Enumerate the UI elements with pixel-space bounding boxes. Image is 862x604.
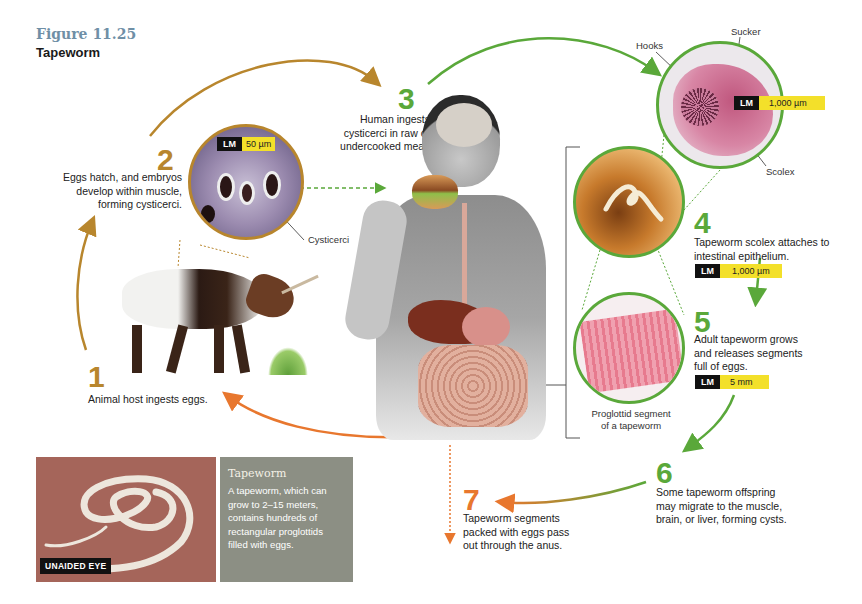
step-1-text: Animal host ingests eggs. xyxy=(88,393,228,407)
tapeworm-in-intestine-icon xyxy=(576,149,685,258)
scale-value: 5 mm xyxy=(720,375,769,389)
infobox-title: Tapeworm xyxy=(228,467,345,480)
scale-bar-proglottid: LM 5 mm xyxy=(695,375,769,389)
cow-illustration xyxy=(118,255,318,375)
arrow-6-to-7 xyxy=(502,482,646,503)
arrow-3-to-4 xyxy=(428,38,656,84)
scale-value: 50 µm xyxy=(242,137,275,151)
step-6-text: Some tapeworm offspring may migrate to t… xyxy=(656,486,796,527)
scale-value: 1,000 µm xyxy=(720,264,782,278)
scale-bar-cysticerci: LM 50 µm xyxy=(217,137,275,151)
scale-value: 1,000 µm xyxy=(759,96,825,110)
scale-type: LM xyxy=(695,375,720,389)
step-6-number: 6 xyxy=(656,458,673,488)
arrow-5-to-6 xyxy=(688,395,734,448)
step-5-text: Adult tapeworm grows and releases segmen… xyxy=(694,333,806,374)
scolex-label: Scolex xyxy=(766,166,795,177)
scale-bar-intestine: LM 1,000 µm xyxy=(695,264,782,278)
brain-icon xyxy=(436,103,492,147)
infobox-text: A tapeworm, which can grow to 2–15 meter… xyxy=(228,484,345,552)
step-4-text: Tapeworm scolex attaches to intestinal e… xyxy=(694,236,834,263)
step-4-number: 4 xyxy=(694,208,711,238)
proglottid-caption: Proglottid segment of a tapeworm xyxy=(586,408,676,432)
grass-icon xyxy=(268,347,308,375)
burger-icon xyxy=(412,175,458,209)
step-7-text: Tapeworm segments packed with eggs pass … xyxy=(463,512,575,553)
step-7-number: 7 xyxy=(463,485,480,515)
step-1-number: 1 xyxy=(88,362,105,392)
cysticerci-label: Cysticerci xyxy=(308,234,349,245)
intestine-micrograph xyxy=(573,146,685,258)
intestines-icon xyxy=(418,345,528,427)
step-2-text: Eggs hatch, and embryos develop within m… xyxy=(54,171,182,212)
stomach-icon xyxy=(462,307,510,347)
unaided-eye-badge: UNAIDED EYE xyxy=(40,558,111,574)
cysticerci-micrograph: LM 50 µm xyxy=(188,124,304,240)
scale-bar-scolex: LM 1,000 µm xyxy=(734,96,825,110)
sucker-label: Sucker xyxy=(731,26,761,37)
arrow-1-to-2 xyxy=(77,222,92,350)
scale-type: LM xyxy=(217,137,242,151)
tapeworm-photo: UNAIDED EYE xyxy=(36,457,216,582)
scale-type: LM xyxy=(695,264,720,278)
tapeworm-infobox: Tapeworm A tapeworm, which can grow to 2… xyxy=(220,457,353,582)
proglottid-micrograph xyxy=(573,292,685,404)
scale-type: LM xyxy=(734,96,759,110)
human-figure-illustration xyxy=(350,95,562,445)
hooks-label: Hooks xyxy=(636,40,663,51)
